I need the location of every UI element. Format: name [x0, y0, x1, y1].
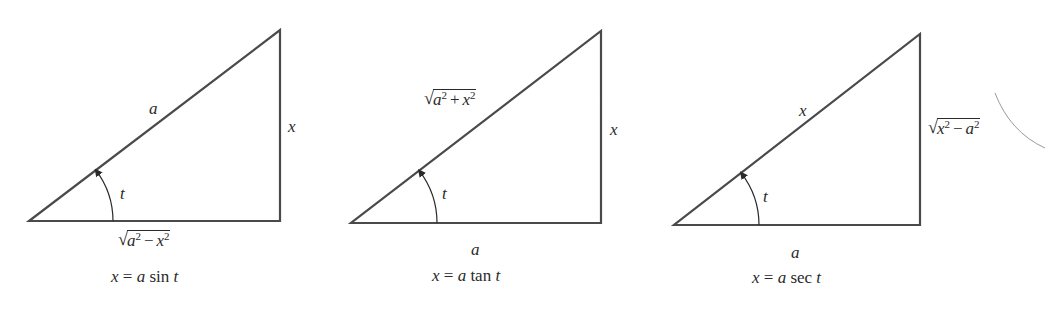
trig-substitution-diagram: a x √ a2−x2 t x = a sin t √ a2+x2 x a t … — [0, 0, 1051, 309]
opposite-side-label: x — [610, 121, 618, 138]
substitution-caption: x = a tan t — [432, 267, 500, 284]
right-triangle-tan — [351, 31, 601, 223]
substitution-caption: x = a sin t — [111, 268, 178, 285]
angle-label: t — [763, 188, 768, 205]
triangles-canvas — [0, 0, 1051, 309]
angle-arc-arrow-icon — [96, 170, 113, 221]
hypotenuse-radical: √ a2+x2 — [424, 89, 476, 108]
opposite-side-radical: √ x2−a2 — [928, 118, 980, 137]
angle-arc-arrow-icon — [741, 173, 759, 225]
scan-artifact-arc — [995, 93, 1045, 148]
substitution-caption: x = a sec t — [752, 269, 821, 286]
hypotenuse-label: x — [799, 102, 807, 119]
angle-arc-arrow-icon — [419, 171, 437, 223]
opposite-side-label: x — [288, 118, 296, 135]
right-triangle-sec — [674, 34, 920, 225]
adjacent-side-label: a — [471, 241, 480, 258]
angle-label: t — [442, 185, 447, 202]
hypotenuse-label: a — [149, 100, 158, 117]
right-triangle-sin — [29, 30, 280, 221]
adjacent-side-radical: √ a2−x2 — [118, 230, 170, 249]
adjacent-side-label: a — [791, 244, 800, 261]
angle-label: t — [120, 185, 125, 202]
